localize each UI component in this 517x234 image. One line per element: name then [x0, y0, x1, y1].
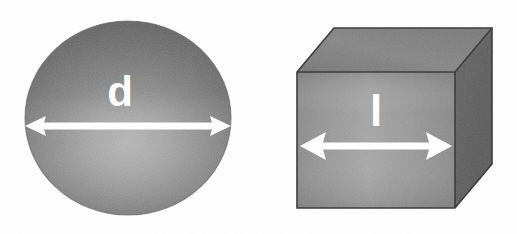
- sphere-dimension-label: d: [107, 68, 133, 115]
- cube-grain-texture: [295, 24, 495, 212]
- diagram-svg: d: [0, 0, 517, 234]
- sphere-grain-texture: [20, 16, 240, 224]
- cube-dimension-label: l: [370, 86, 382, 135]
- cube-figure: l: [295, 24, 495, 212]
- figure-canvas: d: [0, 0, 517, 234]
- sphere-figure: d: [20, 16, 240, 224]
